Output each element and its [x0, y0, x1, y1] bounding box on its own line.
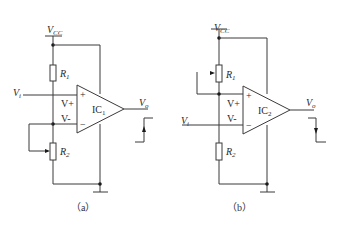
vplus-label-a: V+	[61, 98, 74, 109]
vo-label-b: Vo	[306, 97, 316, 110]
arrow-down-icon	[314, 128, 318, 134]
circuit-diagram: VCC R1 Vi V+ V- + − IC1 Vo R2	[0, 0, 337, 225]
r2-label-b: R2	[225, 146, 236, 159]
vplus-label-b: V+	[227, 98, 240, 109]
minus-sign-b: −	[246, 120, 252, 131]
circuit-a: VCC R1 Vi V+ V- + − IC1 Vo R2	[13, 24, 153, 213]
vcc-label-a: VCC	[47, 24, 63, 37]
r2-label-a: R2	[59, 146, 70, 159]
caption-a: （a）	[71, 202, 95, 213]
vi-label-b: Vi	[181, 115, 189, 128]
wiper-arrow-icon	[210, 71, 215, 75]
wire	[53, 160, 100, 184]
vo-label-a: Vo	[139, 97, 149, 110]
plus-sign-b: +	[246, 90, 252, 101]
resistor-r1-a	[50, 65, 56, 81]
wiper-arrow-icon	[45, 149, 50, 153]
wiper-loop-a	[29, 124, 53, 151]
circuit-b: VCC R1 V+ V- Vi + − IC2 Vo R2	[181, 22, 326, 213]
node-dot	[98, 182, 102, 186]
resistor-r2-a	[50, 143, 56, 160]
plus-sign-a: +	[80, 89, 86, 100]
resistor-r2-b	[216, 143, 222, 160]
r1-label-a: R1	[59, 68, 70, 81]
node-dot	[217, 92, 221, 96]
vminus-label-a: V-	[61, 113, 71, 124]
caption-b: （b）	[227, 202, 252, 213]
vi-label-a: Vi	[13, 87, 21, 100]
r1-label-b: R1	[225, 69, 236, 82]
node-dot	[265, 182, 269, 186]
wire	[219, 160, 267, 184]
vminus-label-b: V-	[227, 113, 237, 124]
resistor-r1-b	[216, 65, 222, 82]
arrow-up-icon	[142, 126, 146, 132]
minus-sign-a: −	[80, 119, 86, 130]
